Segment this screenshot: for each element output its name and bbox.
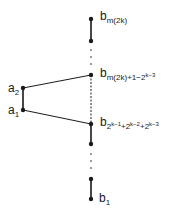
label-superscript: k−1 [111, 121, 121, 127]
label-a1: a1 [8, 104, 19, 121]
label-superscript: k−2 [130, 121, 140, 127]
label-b1: b1 [99, 192, 110, 209]
node-b-mid-upper [89, 73, 93, 77]
label-b-mid-lower: b2k−1+2k−2+2k−3 [100, 116, 159, 133]
label-subscript: 1 [15, 110, 19, 119]
edge-a1-blower [23, 110, 91, 124]
ellipsis-lower [90, 153, 92, 169]
edge-a2-bupper [23, 75, 91, 88]
label-subscript: 1 [106, 198, 110, 207]
label-subscript: +2 [121, 122, 130, 131]
node-b-top [89, 17, 93, 21]
label-base: a [8, 103, 15, 117]
label-subscript: m(2k)+1−2 [107, 73, 146, 82]
chain-diagram [0, 0, 177, 220]
node-a1 [21, 108, 25, 112]
label-superscript: k−3 [149, 121, 159, 127]
label-base: b [99, 191, 106, 205]
label-base: a [8, 81, 15, 95]
node-b-5 [89, 142, 93, 146]
ellipsis-upper [90, 49, 92, 65]
label-base: b [100, 9, 107, 23]
node-b-1 [89, 197, 93, 201]
label-subscript: m(2k) [107, 16, 127, 25]
label-b-mid-upper: bm(2k)+1−2k−3 [100, 67, 155, 84]
label-b-top: bm(2k) [100, 10, 127, 27]
node-b-2 [89, 39, 93, 43]
node-b-6 [89, 177, 93, 181]
label-superscript: k−3 [145, 72, 155, 78]
label-subscript: 2 [15, 88, 19, 97]
label-base: b [100, 115, 107, 129]
node-a2 [21, 86, 25, 90]
node-b-mid-lower [89, 122, 93, 126]
label-a2: a2 [8, 82, 19, 99]
label-base: b [100, 66, 107, 80]
label-subscript: +2 [140, 122, 149, 131]
